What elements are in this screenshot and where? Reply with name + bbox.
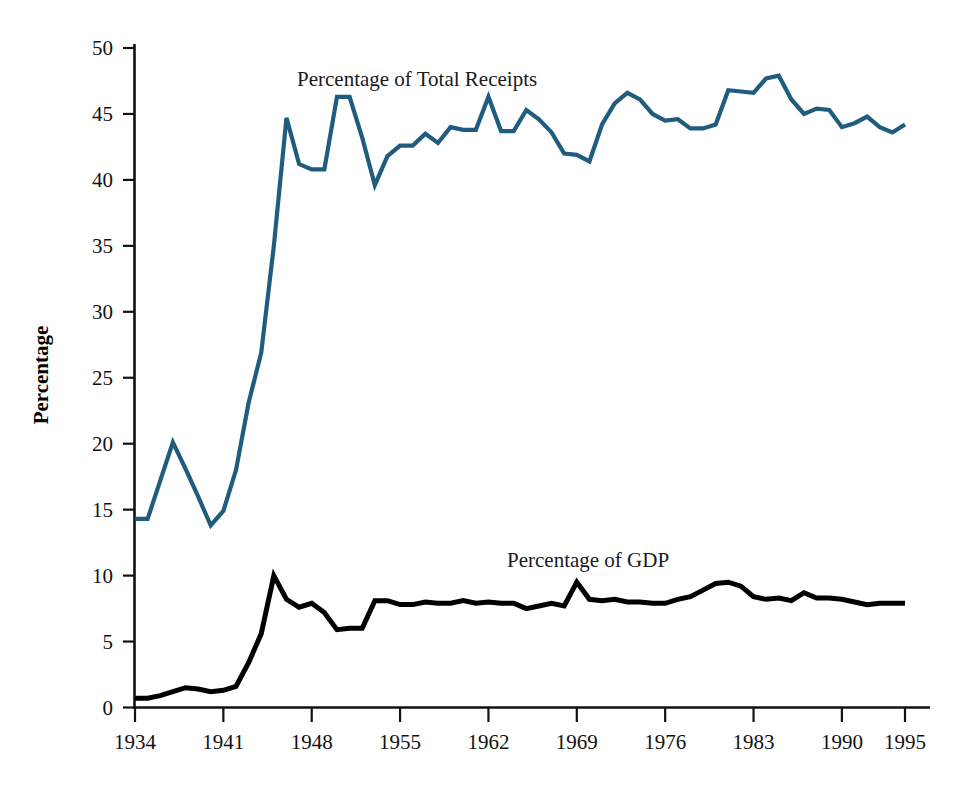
x-axis: 1934194119481955196219691976198319901995 (114, 708, 930, 755)
x-tick-label-1969: 1969 (556, 730, 598, 754)
y-axis-title: Percentage (29, 326, 53, 425)
line-chart: 05101520253035404550 1934194119481955196… (0, 0, 971, 795)
series-line-total-receipts (135, 76, 905, 526)
y-tick-label-0: 0 (103, 696, 114, 720)
y-tick-label-35: 35 (92, 234, 113, 258)
x-tick-label-1976: 1976 (644, 730, 686, 754)
y-tick-label-15: 15 (92, 498, 113, 522)
y-tick-label-20: 20 (92, 432, 113, 456)
x-tick-label-1990: 1990 (821, 730, 863, 754)
y-axis: 05101520253035404550 (92, 36, 135, 720)
y-tick-label-40: 40 (92, 168, 113, 192)
x-tick-label-1962: 1962 (467, 730, 509, 754)
x-axis-tick-labels: 1934194119481955196219691976198319901995 (114, 730, 926, 754)
y-tick-label-25: 25 (92, 366, 113, 390)
y-tick-label-45: 45 (92, 102, 113, 126)
y-axis-tick-labels: 05101520253035404550 (92, 36, 113, 720)
chart-container: 05101520253035404550 1934194119481955196… (0, 0, 971, 795)
x-tick-label-1941: 1941 (202, 730, 244, 754)
x-tick-label-1983: 1983 (733, 730, 775, 754)
x-axis-ticks (135, 708, 905, 723)
y-tick-label-10: 10 (92, 564, 113, 588)
y-tick-label-50: 50 (92, 36, 113, 60)
x-tick-label-1934: 1934 (114, 730, 157, 754)
y-tick-label-5: 5 (103, 630, 114, 654)
y-tick-label-30: 30 (92, 300, 113, 324)
x-tick-label-1995: 1995 (884, 730, 926, 754)
series-annotation-total-receipts: Percentage of Total Receipts (297, 67, 537, 91)
x-tick-label-1948: 1948 (291, 730, 333, 754)
x-tick-label-1955: 1955 (379, 730, 421, 754)
series-lines (135, 76, 905, 699)
series-line-gdp (135, 576, 905, 699)
series-annotation-gdp: Percentage of GDP (507, 548, 669, 572)
